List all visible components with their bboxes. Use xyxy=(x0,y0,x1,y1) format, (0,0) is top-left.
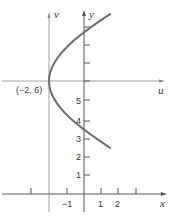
y-tick-label: 3 xyxy=(76,134,81,144)
x-axis-arrow-icon xyxy=(161,192,167,196)
v-axis-arrow-icon xyxy=(48,12,51,18)
x-axis-label: x xyxy=(159,197,165,209)
x-tick-label: 1 xyxy=(98,199,103,209)
y-tick-label: 5 xyxy=(76,96,81,106)
y-axis-label: y xyxy=(88,8,94,20)
u-axis-arrow-icon xyxy=(159,80,165,83)
y-ticks xyxy=(84,27,90,175)
x-tick-label: −1 xyxy=(62,199,72,209)
diagram-canvas: v y u x (−2, 6) −1 1 2 1 2 3 4 5 xyxy=(0,0,176,220)
y-tick-label: 2 xyxy=(76,152,81,162)
v-axis-label: v xyxy=(54,8,59,20)
u-axis-label: u xyxy=(158,84,164,96)
y-tick-label: 1 xyxy=(76,170,81,180)
y-axis-arrow-icon xyxy=(82,10,86,16)
y-tick-label: 4 xyxy=(76,116,81,126)
vertex-label: (−2, 6) xyxy=(16,85,42,95)
x-tick-label: 2 xyxy=(115,199,120,209)
